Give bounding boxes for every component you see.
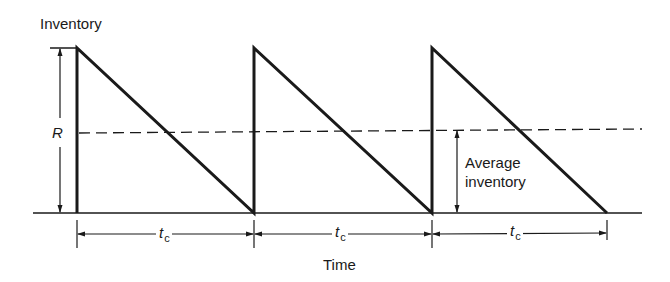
x-axis-label: Time	[323, 257, 356, 272]
cycle-label-1-main: t	[159, 224, 163, 241]
inventory-diagram: Inventory R Average inventory tc tc tc T…	[0, 0, 670, 282]
cycle-label-3-sub: c	[515, 230, 521, 242]
average-label-line2: inventory	[465, 174, 526, 189]
y-axis-label: Inventory	[40, 16, 102, 31]
average-label-line1: Average	[465, 155, 521, 170]
cycle-label-1-sub: c	[164, 232, 170, 244]
cycle-label-2-main: t	[335, 223, 339, 240]
cycle-label-1: tc	[156, 225, 172, 240]
cycle-label-3: tc	[507, 223, 523, 238]
r-label: R	[52, 124, 63, 141]
cycle-label-2-sub: c	[340, 231, 346, 243]
cycle-label-3-main: t	[510, 222, 514, 239]
cycle-label-2: tc	[332, 224, 348, 239]
